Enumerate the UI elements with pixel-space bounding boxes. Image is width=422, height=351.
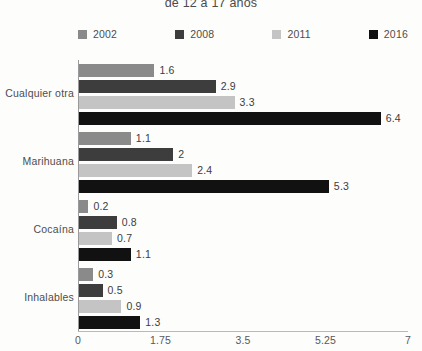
bar-row: 2 <box>79 148 409 161</box>
x-axis-tick-label: 5.25 <box>315 334 336 346</box>
bar-value-label: 0.9 <box>126 300 141 312</box>
bar-value-label: 0.3 <box>98 268 113 280</box>
bar-row: 3.3 <box>79 96 409 109</box>
bar-row: 0.8 <box>79 216 409 229</box>
bar-row: 2.9 <box>79 80 409 93</box>
bar-2011-Cocaína[interactable] <box>79 232 112 245</box>
legend-swatch-icon <box>78 30 87 39</box>
bar-row: 2.4 <box>79 164 409 177</box>
bar-2002-Cocaína[interactable] <box>79 200 88 213</box>
bar-row: 1.3 <box>79 316 409 329</box>
bar-value-label: 1.3 <box>145 316 160 328</box>
bar-value-label: 0.2 <box>93 200 108 212</box>
bar-row: 1.1 <box>79 132 409 145</box>
bar-2011-Inhalables[interactable] <box>79 300 121 313</box>
legend-item-label: 2008 <box>190 28 214 40</box>
legend-item-2016[interactable]: 2016 <box>369 28 408 40</box>
bar-group: 0.20.80.71.1 <box>78 196 408 264</box>
x-axis-tick-label: 1.75 <box>150 334 171 346</box>
category-label-Inhalables: Inhalables <box>2 291 74 303</box>
bar-value-label: 1.6 <box>159 64 174 76</box>
legend-swatch-icon <box>369 30 378 39</box>
bar-2002-Marihuana[interactable] <box>79 132 131 145</box>
legend-item-2002[interactable]: 2002 <box>78 28 117 40</box>
legend-swatch-icon <box>175 30 184 39</box>
legend-item-label: 2016 <box>384 28 408 40</box>
bar-2008-Cocaína[interactable] <box>79 216 117 229</box>
legend-item-label: 2011 <box>287 28 310 40</box>
bar-2016-Marihuana[interactable] <box>79 180 329 193</box>
bar-value-label: 2 <box>178 148 184 160</box>
x-axis-tick-label: 3.5 <box>235 334 250 346</box>
bar-value-label: 6.4 <box>386 112 401 124</box>
legend-item-2008[interactable]: 2008 <box>175 28 214 40</box>
bar-group: 1.122.45.3 <box>78 128 408 196</box>
bar-2011-Cualquier otra[interactable] <box>79 96 235 109</box>
bar-value-label: 0.7 <box>117 232 132 244</box>
bar-value-label: 0.5 <box>108 284 123 296</box>
bar-value-label: 2.9 <box>221 80 236 92</box>
legend-item-2011[interactable]: 2011 <box>272 28 310 40</box>
x-axis-tick-label: 0 <box>75 334 81 346</box>
bar-2011-Marihuana[interactable] <box>79 164 192 177</box>
bar-2008-Inhalables[interactable] <box>79 284 103 297</box>
bar-2008-Marihuana[interactable] <box>79 148 173 161</box>
chart-title: de 12 a 17 años <box>0 0 422 10</box>
bar-row: 0.2 <box>79 200 409 213</box>
bar-2002-Inhalables[interactable] <box>79 268 93 281</box>
bar-row: 0.9 <box>79 300 409 313</box>
value-axis-ticks: 01.753.55.257 <box>78 334 408 350</box>
bar-row: 5.3 <box>79 180 409 193</box>
category-axis-labels: Cualquier otraMarihuanaCocaínaInhalables <box>0 60 74 332</box>
category-label-Marihuana: Marihuana <box>2 155 74 167</box>
bar-2016-Inhalables[interactable] <box>79 316 140 329</box>
bar-group: 1.62.93.36.4 <box>78 60 408 128</box>
bar-2016-Cocaína[interactable] <box>79 248 131 261</box>
bar-chart: de 12 a 17 años 2002200820112016 Cualqui… <box>0 0 422 351</box>
bar-2008-Cualquier otra[interactable] <box>79 80 216 93</box>
legend-swatch-icon <box>272 30 281 39</box>
bar-2002-Cualquier otra[interactable] <box>79 64 154 77</box>
bar-row: 1.1 <box>79 248 409 261</box>
bar-group: 0.30.50.91.3 <box>78 264 408 332</box>
bar-row: 6.4 <box>79 112 409 125</box>
bar-row: 0.7 <box>79 232 409 245</box>
category-label-Cocaína: Cocaína <box>2 223 74 235</box>
plot-area: 1.62.93.36.41.122.45.30.20.80.71.10.30.5… <box>78 60 408 332</box>
bar-value-label: 3.3 <box>240 96 255 108</box>
legend-item-label: 2002 <box>93 28 117 40</box>
bar-value-label: 0.8 <box>122 216 137 228</box>
bar-row: 0.5 <box>79 284 409 297</box>
bar-value-label: 5.3 <box>334 180 349 192</box>
chart-legend: 2002200820112016 <box>78 26 408 42</box>
bar-row: 0.3 <box>79 268 409 281</box>
bar-value-label: 1.1 <box>136 248 151 260</box>
bar-value-label: 2.4 <box>197 164 212 176</box>
bar-value-label: 1.1 <box>136 132 151 144</box>
bar-2016-Cualquier otra[interactable] <box>79 112 381 125</box>
category-label-Cualquier otra: Cualquier otra <box>2 87 74 99</box>
x-axis-tick-label: 7 <box>405 334 411 346</box>
bar-row: 1.6 <box>79 64 409 77</box>
